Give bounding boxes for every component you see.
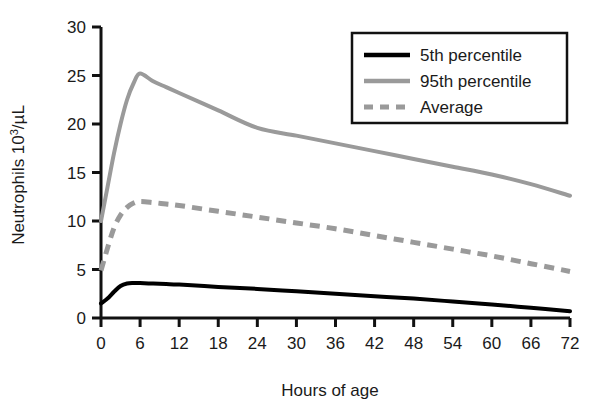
legend-label: 95th percentile	[420, 72, 532, 91]
x-tick-label: 72	[561, 334, 580, 353]
x-tick-label: 12	[170, 334, 189, 353]
x-tick-label: 60	[482, 334, 501, 353]
legend-label: 5th percentile	[420, 46, 522, 65]
x-tick-label: 54	[443, 334, 462, 353]
x-axis-title-label: Hours of age	[281, 381, 378, 400]
y-tick-label: 15	[67, 164, 86, 183]
chart-legend: 5th percentile95th percentileAverage	[352, 33, 567, 123]
x-tick-label: 36	[326, 334, 345, 353]
x-tick-label: 24	[248, 334, 267, 353]
legend-label: Average	[420, 98, 483, 117]
neutrophil-reference-chart: 051015202530 061218243036424854606672 Ne…	[0, 0, 600, 412]
x-tick-label: 6	[135, 334, 144, 353]
y-axis-title-main: Neutrophils 10	[9, 135, 28, 245]
x-tick-label: 48	[404, 334, 423, 353]
y-tick-label: 0	[77, 309, 86, 328]
chart-canvas: 051015202530 061218243036424854606672 Ne…	[0, 0, 600, 412]
y-tick-label: 25	[67, 67, 86, 86]
x-tick-label: 30	[287, 334, 306, 353]
x-tick-label: 18	[209, 334, 228, 353]
y-tick-label: 5	[77, 261, 86, 280]
y-axis-title-tail: /µL	[9, 105, 28, 129]
x-tick-label: 0	[96, 334, 105, 353]
y-tick-label: 10	[67, 212, 86, 231]
x-tick-label: 42	[365, 334, 384, 353]
y-tick-label: 20	[67, 115, 86, 134]
y-axis-title: Neutrophils 103/µL	[8, 105, 28, 245]
y-tick-label: 30	[67, 18, 86, 37]
x-tick-label: 66	[521, 334, 540, 353]
y-axis-title-label: Neutrophils 103/µL	[8, 105, 28, 245]
